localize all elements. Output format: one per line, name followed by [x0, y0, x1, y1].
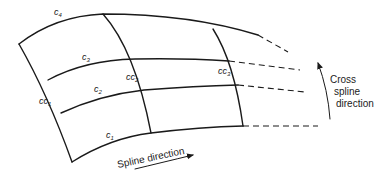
extension-c4 — [258, 35, 288, 52]
cross-direction-label-line1: Cross — [330, 74, 356, 85]
label-c2: c2 — [94, 84, 103, 95]
curve-c4 — [19, 14, 258, 44]
cross-direction-label-line3: direction — [336, 98, 374, 109]
curve-cc3 — [213, 29, 243, 126]
extension-c3 — [229, 61, 300, 70]
cross-direction-label-line2: spline — [334, 86, 361, 97]
label-c4: c4 — [54, 7, 63, 18]
curve-c2 — [61, 85, 238, 113]
extension-c2 — [238, 85, 305, 92]
label-cc3: cc3 — [218, 66, 231, 77]
label-c1: c1 — [106, 130, 114, 141]
label-cc2: cc2 — [126, 72, 139, 83]
label-cc1: cc1 — [39, 96, 51, 107]
label-c3: c3 — [82, 52, 91, 63]
spline-direction-label: Spline direction — [116, 145, 185, 170]
spline-diagram: c4 c3 c2 c1 cc1 cc2 cc3 Spline direction… — [0, 0, 384, 177]
curve-c3 — [48, 59, 229, 80]
cross-direction-arrow — [318, 63, 330, 119]
diagram-canvas: c4 c3 c2 c1 cc1 cc2 cc3 Spline direction… — [0, 0, 384, 177]
